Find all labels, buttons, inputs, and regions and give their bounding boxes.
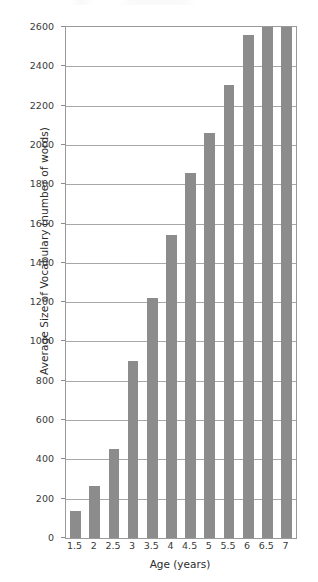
bar-slot [258,27,277,538]
x-tick-label: 6.5 [257,540,276,556]
y-tick-label: 1400 [30,256,54,267]
x-axis-tick-labels: 1.522.533.544.555.566.57 [65,540,295,556]
bar-slot [181,27,200,538]
bar [185,173,196,538]
bar-slot [162,27,181,538]
y-tick-label: 2600 [30,21,54,32]
bar [224,85,235,538]
bar [70,511,81,539]
bar [243,35,254,538]
scan-artifact [70,0,250,5]
y-tick-label: 1200 [30,296,54,307]
y-tick-label: 2000 [30,138,54,149]
x-axis-title: Age (years) [65,558,295,570]
y-tick-label: 2400 [30,60,54,71]
x-tick-label: 4 [161,540,180,556]
y-tick-label: 1600 [30,217,54,228]
bar [204,133,215,538]
bar [166,235,177,538]
x-tick-label: 7 [276,540,295,556]
y-tick-label: 1800 [30,178,54,189]
y-tick-label: 600 [36,414,54,425]
x-tick-label: 2 [84,540,103,556]
bar [128,361,139,538]
plot-area [65,26,297,539]
x-tick-label: 3.5 [142,540,161,556]
bar-slot [124,27,143,538]
bar [281,27,292,538]
bar-slot [277,27,296,538]
bar-series [66,27,296,538]
bar-slot [200,27,219,538]
x-tick-label: 4.5 [180,540,199,556]
bar-slot [239,27,258,538]
y-tick-label: 800 [36,374,54,385]
x-tick-label: 5 [199,540,218,556]
y-tick-label: 1000 [30,335,54,346]
x-tick-label: 1.5 [65,540,84,556]
bar-slot [85,27,104,538]
y-axis-tick-labels: 0200400600800100012001400160018002000220… [0,0,62,582]
bar [147,298,158,538]
bar-slot [143,27,162,538]
bar-slot [66,27,85,538]
bar-slot [104,27,123,538]
y-tick-label: 400 [36,453,54,464]
x-tick-label: 5.5 [218,540,237,556]
x-tick-label: 6 [238,540,257,556]
y-tick-label: 0 [48,532,54,543]
vocabulary-growth-bar-chart: Average Size of Vocabulary (number of wo… [0,0,318,582]
bar [109,449,120,538]
bar [262,27,273,538]
bar [89,486,100,538]
y-tick-label: 2200 [30,99,54,110]
bar-slot [219,27,238,538]
y-tick-label: 200 [36,492,54,503]
x-tick-label: 3 [123,540,142,556]
x-tick-label: 2.5 [103,540,122,556]
